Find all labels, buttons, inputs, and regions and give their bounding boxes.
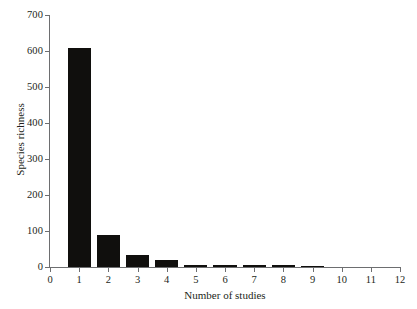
x-tick-label: 4 bbox=[155, 274, 179, 285]
x-tick-12 bbox=[400, 268, 401, 272]
bar bbox=[243, 265, 266, 267]
bar-chart-figure: 0100200300400500600700 0123456789101112 … bbox=[0, 0, 417, 309]
x-axis-title: Number of studies bbox=[50, 289, 400, 302]
x-tick-10 bbox=[342, 268, 343, 272]
x-tick-label: 10 bbox=[330, 274, 354, 285]
x-tick-6 bbox=[225, 268, 226, 272]
x-tick-label: 7 bbox=[242, 274, 266, 285]
y-tick-label-holder: 0 bbox=[0, 262, 43, 273]
x-tick-8 bbox=[283, 268, 284, 272]
x-tick-label: 11 bbox=[359, 274, 383, 285]
bar bbox=[301, 266, 324, 267]
y-tick-label: 700 bbox=[3, 10, 43, 21]
x-tick-label: 3 bbox=[126, 274, 150, 285]
y-tick-label-holder: 700 bbox=[0, 10, 43, 21]
y-tick-label: 600 bbox=[3, 46, 43, 57]
bar bbox=[68, 48, 91, 267]
x-tick-1 bbox=[79, 268, 80, 272]
y-tick-label: 100 bbox=[3, 226, 43, 237]
y-tick-label-holder: 600 bbox=[0, 46, 43, 57]
bar bbox=[184, 265, 207, 267]
x-tick-7 bbox=[254, 268, 255, 272]
x-tick-label: 12 bbox=[388, 274, 412, 285]
y-tick-600 bbox=[45, 51, 49, 52]
x-tick-label: 6 bbox=[213, 274, 237, 285]
y-tick-label-holder: 100 bbox=[0, 226, 43, 237]
y-tick-0 bbox=[45, 267, 49, 268]
x-tick-11 bbox=[371, 268, 372, 272]
x-tick-9 bbox=[313, 268, 314, 272]
x-tick-label: 5 bbox=[184, 274, 208, 285]
y-axis-title: Species richness bbox=[14, 70, 27, 210]
bar bbox=[272, 265, 295, 267]
bar bbox=[213, 265, 236, 267]
y-tick-400 bbox=[45, 123, 49, 124]
x-tick-label: 1 bbox=[67, 274, 91, 285]
plot-area bbox=[50, 15, 400, 267]
y-tick-300 bbox=[45, 159, 49, 160]
bar bbox=[155, 260, 178, 267]
x-tick-5 bbox=[196, 268, 197, 272]
y-tick-200 bbox=[45, 195, 49, 196]
x-tick-label: 2 bbox=[96, 274, 120, 285]
bar bbox=[126, 255, 149, 267]
x-tick-0 bbox=[50, 268, 51, 272]
bar bbox=[97, 235, 120, 267]
y-tick-label: 0 bbox=[3, 262, 43, 273]
y-tick-700 bbox=[45, 15, 49, 16]
x-tick-label: 9 bbox=[301, 274, 325, 285]
x-tick-label: 0 bbox=[38, 274, 62, 285]
y-tick-500 bbox=[45, 87, 49, 88]
x-tick-4 bbox=[167, 268, 168, 272]
x-tick-label: 8 bbox=[271, 274, 295, 285]
x-tick-2 bbox=[108, 268, 109, 272]
y-tick-100 bbox=[45, 231, 49, 232]
x-tick-3 bbox=[138, 268, 139, 272]
